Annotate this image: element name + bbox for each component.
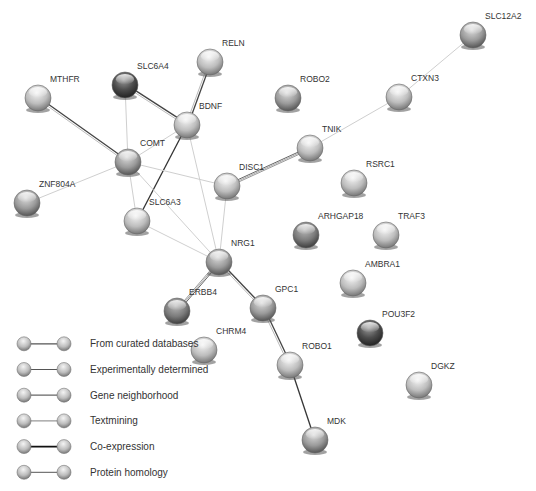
legend-item-co-expression: Co-expression	[14, 434, 208, 460]
node-gpc1[interactable]	[250, 295, 276, 323]
node-nrg1[interactable]	[206, 249, 232, 277]
edge-bdnf-nrg1[interactable]	[187, 125, 219, 262]
legend-sample-icon	[14, 463, 74, 481]
node-znf804a[interactable]	[14, 190, 40, 218]
node-mthfr[interactable]	[25, 85, 51, 113]
legend-sample-icon	[14, 361, 74, 379]
node-comt[interactable]	[115, 149, 141, 177]
node-label-chrm4: CHRM4	[216, 326, 246, 336]
node-label-ambra1: AMBRA1	[365, 259, 400, 269]
legend-label: Gene neighborhood	[90, 390, 178, 401]
edge-mthfr-comt[interactable]	[37, 97, 128, 163]
node-ambra1[interactable]	[340, 270, 366, 298]
node-dgkz[interactable]	[406, 372, 432, 400]
legend-sample-icon	[14, 335, 74, 353]
node-label-tnik: TNIK	[322, 124, 341, 134]
node-label-slc6a3: SLC6A3	[149, 197, 181, 207]
legend-sample-icon	[14, 386, 74, 404]
legend-label: Protein homology	[90, 467, 168, 478]
node-label-reln: RELN	[222, 38, 245, 48]
legend-item-experimentally-determined: Experimentally determined	[14, 357, 208, 383]
legend-label: From curated databases	[90, 338, 198, 349]
node-slc6a4[interactable]	[112, 72, 138, 100]
edge-legend: From curated databases Experimentally de…	[14, 331, 208, 485]
node-label-traf3: TRAF3	[398, 211, 425, 221]
node-robo1[interactable]	[277, 352, 303, 380]
legend-item-protein-homology: Protein homology	[14, 459, 208, 485]
node-robo2[interactable]	[275, 85, 301, 113]
node-pou3f2[interactable]	[357, 320, 383, 348]
node-label-robo1: ROBO1	[302, 341, 332, 351]
edge-tnik-ctxn3[interactable]	[310, 97, 399, 148]
edge-comt-disc1[interactable]	[128, 162, 227, 186]
node-mdk[interactable]	[302, 427, 328, 455]
legend-label: Co-expression	[90, 441, 154, 452]
legend-label: Experimentally determined	[90, 364, 208, 375]
node-tnik[interactable]	[297, 135, 323, 163]
edge-slc6a3-nrg1[interactable]	[137, 221, 219, 262]
node-erbb4[interactable]	[164, 298, 190, 326]
node-rsrc1[interactable]	[341, 170, 367, 198]
node-label-dgkz: DGKZ	[431, 361, 455, 371]
node-label-bdnf: BDNF	[199, 101, 222, 111]
node-label-comt: COMT	[140, 138, 165, 148]
legend-sample-icon	[14, 438, 74, 456]
node-label-mthfr: MTHFR	[50, 74, 80, 84]
node-label-mdk: MDK	[327, 416, 346, 426]
node-label-ctxn3: CTXN3	[411, 73, 439, 83]
legend-item-gene-neighborhood: Gene neighborhood	[14, 382, 208, 408]
node-ctxn3[interactable]	[386, 84, 412, 112]
node-label-robo2: ROBO2	[300, 74, 330, 84]
node-slc12a2[interactable]	[460, 22, 486, 50]
node-disc1[interactable]	[214, 173, 240, 201]
node-label-slc6a4: SLC6A4	[137, 61, 169, 71]
node-label-rsrc1: RSRC1	[366, 159, 395, 169]
node-slc6a3[interactable]	[124, 208, 150, 236]
edge-ctxn3-slc12a2[interactable]	[399, 35, 473, 97]
legend-item-textmining: Textmining	[14, 408, 208, 434]
legend-sample-icon	[14, 412, 74, 430]
node-label-pou3f2: POU3F2	[382, 309, 415, 319]
node-arhgap18[interactable]	[293, 222, 319, 250]
node-label-nrg1: NRG1	[231, 238, 255, 248]
node-label-disc1: DISC1	[239, 162, 264, 172]
node-bdnf[interactable]	[174, 112, 200, 140]
legend-label: Textmining	[90, 415, 138, 426]
node-label-slc12a2: SLC12A2	[485, 11, 521, 21]
node-traf3[interactable]	[373, 222, 399, 250]
node-label-arhgap18: ARHGAP18	[318, 211, 363, 221]
node-label-erbb4: ERBB4	[189, 287, 217, 297]
node-label-gpc1: GPC1	[275, 284, 298, 294]
legend-item-curated-databases: From curated databases	[14, 331, 208, 357]
node-reln[interactable]	[197, 49, 223, 77]
node-label-znf804a: ZNF804A	[39, 179, 75, 189]
